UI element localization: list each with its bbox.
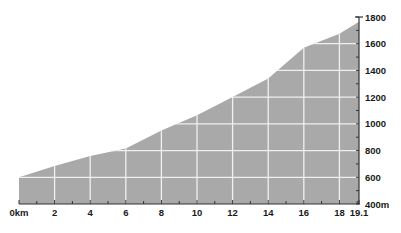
x-tick-label: 18 <box>334 207 345 218</box>
x-tick-label: 2 <box>52 207 57 218</box>
y-tick-label: 800 <box>365 145 381 156</box>
y-tick-label: 1200 <box>365 92 386 103</box>
x-tick-label: 6 <box>123 207 128 218</box>
x-tick-label: 14 <box>263 207 274 218</box>
x-tick-label: 10 <box>192 207 203 218</box>
x-axis-labels: 0km2468101214161819.1 <box>9 207 368 218</box>
x-tick-label: 16 <box>299 207 310 218</box>
x-tick-label: 0km <box>9 207 28 218</box>
y-tick-label: 1800 <box>365 12 386 23</box>
y-tick-label: 1400 <box>365 65 386 76</box>
x-tick-label: 8 <box>159 207 164 218</box>
y-tick-label: 1000 <box>365 118 386 129</box>
y-axis-labels: 400m60080010001200140016001800 <box>365 12 389 210</box>
x-tick-label: 12 <box>227 207 238 218</box>
x-tick-label: 4 <box>88 207 94 218</box>
y-tick-label: 400m <box>365 199 389 210</box>
elevation-profile-chart: 0km2468101214161819.1 400m60080010001200… <box>0 0 401 233</box>
y-tick-label: 600 <box>365 172 381 183</box>
y-tick-label: 1600 <box>365 38 386 49</box>
